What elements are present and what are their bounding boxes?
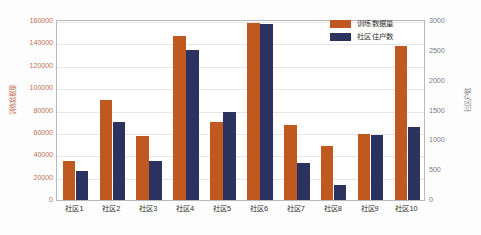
right-tick-label: 2000: [429, 77, 445, 85]
left-tick-label: 0: [49, 196, 53, 204]
legend-swatch-icon: [330, 20, 351, 28]
left-tick-label: 60000: [34, 129, 54, 137]
category-label: 社区3: [130, 204, 167, 213]
left-axis-title: 训练数据量: [9, 77, 16, 123]
bar-household-count[interactable]: [76, 171, 89, 200]
legend-item[interactable]: 社区住户数: [330, 32, 394, 41]
bar-household-count[interactable]: [334, 185, 347, 200]
category-label: 社区2: [93, 204, 130, 213]
category-label: 社区7: [277, 204, 314, 213]
bar-group: [57, 21, 94, 200]
right-tick-label: 500: [429, 166, 441, 174]
category-label: 社区4: [167, 204, 204, 213]
bar-training-data[interactable]: [100, 100, 113, 200]
category-label: 社区5: [204, 204, 241, 213]
left-tick-label: 80000: [34, 107, 54, 115]
bar-training-data[interactable]: [210, 122, 223, 200]
bar-household-count[interactable]: [408, 127, 421, 200]
bar-training-data[interactable]: [284, 125, 297, 200]
bar-chart: 训练数据量 社区户数 16000014000012000010000080000…: [0, 0, 481, 235]
bar-training-data[interactable]: [358, 134, 371, 200]
category-label: 社区10: [388, 204, 425, 213]
category-label: 社区6: [241, 204, 278, 213]
bar-household-count[interactable]: [186, 50, 199, 200]
plot-area: [56, 20, 425, 201]
bar-training-data[interactable]: [395, 46, 408, 200]
bar-group: [278, 21, 315, 200]
right-tick-label: 1000: [429, 136, 445, 144]
bar-training-data[interactable]: [63, 161, 76, 200]
right-tick-label: 0: [429, 196, 433, 204]
left-tick-label: 20000: [34, 174, 54, 182]
right-tick-label: 1500: [429, 107, 445, 115]
bar-group: [242, 21, 279, 200]
left-tick-label: 40000: [34, 151, 54, 159]
bar-group: [131, 21, 168, 200]
bar-group: [205, 21, 242, 200]
bar-household-count[interactable]: [223, 112, 236, 200]
bar-training-data[interactable]: [136, 136, 149, 200]
left-tick-label: 120000: [30, 62, 53, 70]
legend-item[interactable]: 训练数据量: [330, 19, 394, 28]
bar-household-count[interactable]: [113, 122, 126, 200]
right-tick-label: 3000: [429, 17, 445, 25]
bar-group: [389, 21, 424, 200]
category-label: 社区8: [314, 204, 351, 213]
right-axis-title: 社区户数: [464, 77, 471, 123]
bar-training-data[interactable]: [173, 36, 186, 200]
bar-household-count[interactable]: [149, 161, 162, 200]
bar-training-data[interactable]: [321, 146, 334, 200]
bar-training-data[interactable]: [247, 23, 260, 200]
right-tick-label: 2500: [429, 47, 445, 55]
category-label: 社区1: [56, 204, 93, 213]
left-tick-label: 100000: [30, 84, 53, 92]
category-label: 社区9: [351, 204, 388, 213]
bar-household-count[interactable]: [297, 163, 310, 200]
bar-group: [315, 21, 352, 200]
legend-swatch-icon: [330, 33, 351, 41]
legend: 训练数据量社区住户数: [330, 19, 394, 41]
left-tick-label: 160000: [30, 17, 53, 25]
bar-group: [94, 21, 131, 200]
bar-group: [168, 21, 205, 200]
legend-label: 社区住户数: [357, 32, 394, 41]
bar-household-count[interactable]: [260, 24, 273, 200]
legend-label: 训练数据量: [357, 19, 394, 28]
bar-group: [352, 21, 389, 200]
left-tick-label: 140000: [30, 39, 53, 47]
bar-household-count[interactable]: [371, 135, 384, 200]
